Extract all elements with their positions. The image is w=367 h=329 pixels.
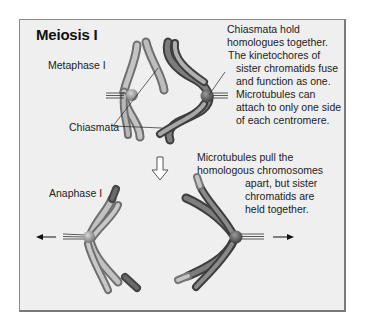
anaphase-right-chromosome [178,177,234,287]
anaphase-right-centromere [230,231,243,244]
anaphase-left-chromosome [88,189,137,290]
left-arrow-icon [36,234,56,240]
right-arrow-icon [273,234,294,240]
anaphase-left-microtubules [63,234,86,239]
anaphase-left-centromere [83,231,95,243]
down-arrow-icon [152,157,168,180]
chromosome-illustration [0,0,367,329]
metaphase-right-microtubules [212,93,228,98]
metaphase-left-centromere [126,89,138,101]
